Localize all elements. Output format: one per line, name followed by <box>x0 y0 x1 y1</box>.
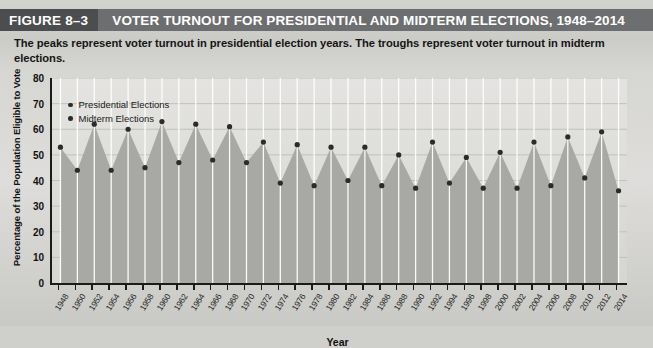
x-tick-2000: 2000 <box>493 292 511 312</box>
x-tickmark-2004 <box>531 284 533 290</box>
data-point-1974 <box>278 180 283 185</box>
x-tickmark-1960 <box>159 284 161 290</box>
x-tick-1964: 1964 <box>188 292 206 312</box>
x-tick-1956: 1956 <box>121 292 139 312</box>
x-tick-1966: 1966 <box>205 292 223 312</box>
x-tick-1974: 1974 <box>273 292 291 312</box>
data-point-1958 <box>142 165 147 170</box>
x-tick-1992: 1992 <box>425 292 443 312</box>
x-tick-1984: 1984 <box>357 292 375 312</box>
x-tick-2006: 2006 <box>543 292 561 312</box>
x-tick-1978: 1978 <box>307 292 325 312</box>
data-point-2004 <box>531 139 536 144</box>
x-tick-2002: 2002 <box>510 292 528 312</box>
x-tick-1982: 1982 <box>340 292 358 312</box>
x-tickmark-1956 <box>125 284 127 290</box>
x-tickmark-1984 <box>362 284 364 290</box>
data-point-1976 <box>295 142 300 147</box>
x-tickmark-1992 <box>430 284 432 290</box>
legend-item-midterm: Midterm Elections <box>68 112 169 126</box>
figure-caption: The peaks represent voter turnout in pre… <box>14 36 630 65</box>
x-tick-2008: 2008 <box>560 292 578 312</box>
x-tickmark-1964 <box>193 284 195 290</box>
x-tickmark-1982 <box>345 284 347 290</box>
data-point-2006 <box>548 183 553 188</box>
data-point-1950 <box>75 168 80 173</box>
y-tick-80: 80 <box>33 73 44 84</box>
data-point-2014 <box>616 188 621 193</box>
legend-label-midterm: Midterm Elections <box>79 112 155 126</box>
legend-item-presidential: Presidential Elections <box>68 98 169 112</box>
x-tick-1950: 1950 <box>70 292 88 312</box>
x-tickmark-1994 <box>447 284 449 290</box>
x-tickmark-1978 <box>311 284 313 290</box>
data-point-1998 <box>481 186 486 191</box>
x-tick-1970: 1970 <box>239 292 257 312</box>
plot-canvas: Presidential Elections Midterm Elections <box>50 78 627 285</box>
data-point-1954 <box>109 168 114 173</box>
x-tickmark-2006 <box>548 284 550 290</box>
x-tick-1954: 1954 <box>104 292 122 312</box>
x-tickmark-1970 <box>244 284 246 290</box>
y-tick-10: 10 <box>33 252 44 263</box>
y-tick-50: 50 <box>33 149 44 160</box>
data-point-1980 <box>328 145 333 150</box>
data-point-1948 <box>58 145 63 150</box>
y-tick-60: 60 <box>33 124 44 135</box>
x-tickmark-1952 <box>91 284 93 290</box>
x-tick-1990: 1990 <box>408 292 426 312</box>
chart-area: Percentage of the Population Eligible to… <box>0 70 653 326</box>
data-point-1964 <box>193 122 198 127</box>
data-point-2008 <box>565 134 570 139</box>
x-tick-1976: 1976 <box>290 292 308 312</box>
y-tick-20: 20 <box>33 226 44 237</box>
x-tickmark-1962 <box>176 284 178 290</box>
data-point-1966 <box>210 157 215 162</box>
x-tick-2010: 2010 <box>577 292 595 312</box>
x-tick-2004: 2004 <box>527 292 545 312</box>
x-axis-title: Year <box>50 336 625 348</box>
x-tickmark-1954 <box>108 284 110 290</box>
data-point-1984 <box>362 145 367 150</box>
legend-dot-icon <box>68 116 73 121</box>
x-tickmark-2010 <box>582 284 584 290</box>
chart-legend: Presidential Elections Midterm Elections <box>68 98 169 125</box>
data-point-1988 <box>396 152 401 157</box>
x-tickmark-1996 <box>464 284 466 290</box>
x-tickmark-2012 <box>599 284 601 290</box>
x-tickmark-2014 <box>616 284 618 290</box>
data-point-1968 <box>227 124 232 129</box>
x-tickmark-1968 <box>227 284 229 290</box>
y-axis-tick-labels: 01020304050607080 <box>22 78 44 283</box>
x-tickmark-1958 <box>142 284 144 290</box>
x-tickmark-1986 <box>379 284 381 290</box>
y-tick-40: 40 <box>33 175 44 186</box>
data-point-1972 <box>261 139 266 144</box>
x-tickmark-1988 <box>396 284 398 290</box>
y-tick-70: 70 <box>33 98 44 109</box>
data-point-2012 <box>599 129 604 134</box>
legend-dot-icon <box>68 103 73 108</box>
data-point-1956 <box>126 127 131 132</box>
x-tick-1962: 1962 <box>171 292 189 312</box>
y-axis-title: Percentage of the Population Eligible to… <box>11 68 22 268</box>
x-tickmark-1980 <box>328 284 330 290</box>
x-tick-1972: 1972 <box>256 292 274 312</box>
data-point-2010 <box>582 175 587 180</box>
figure-title-bar: FIGURE 8–3 VOTER TURNOUT FOR PRESIDENTIA… <box>0 9 653 31</box>
y-tick-0: 0 <box>38 278 44 289</box>
figure-title: VOTER TURNOUT FOR PRESIDENTIAL AND MIDTE… <box>98 9 625 31</box>
data-point-1994 <box>447 180 452 185</box>
legend-label-presidential: Presidential Elections <box>79 98 170 112</box>
x-tickmark-1976 <box>294 284 296 290</box>
x-tickmark-1948 <box>58 284 60 290</box>
data-point-1962 <box>176 160 181 165</box>
x-tickmark-2008 <box>565 284 567 290</box>
x-tickmark-1966 <box>210 284 212 290</box>
y-tick-30: 30 <box>33 201 44 212</box>
x-tick-1980: 1980 <box>324 292 342 312</box>
data-point-1996 <box>464 155 469 160</box>
data-point-1982 <box>345 178 350 183</box>
x-tick-1994: 1994 <box>442 292 460 312</box>
